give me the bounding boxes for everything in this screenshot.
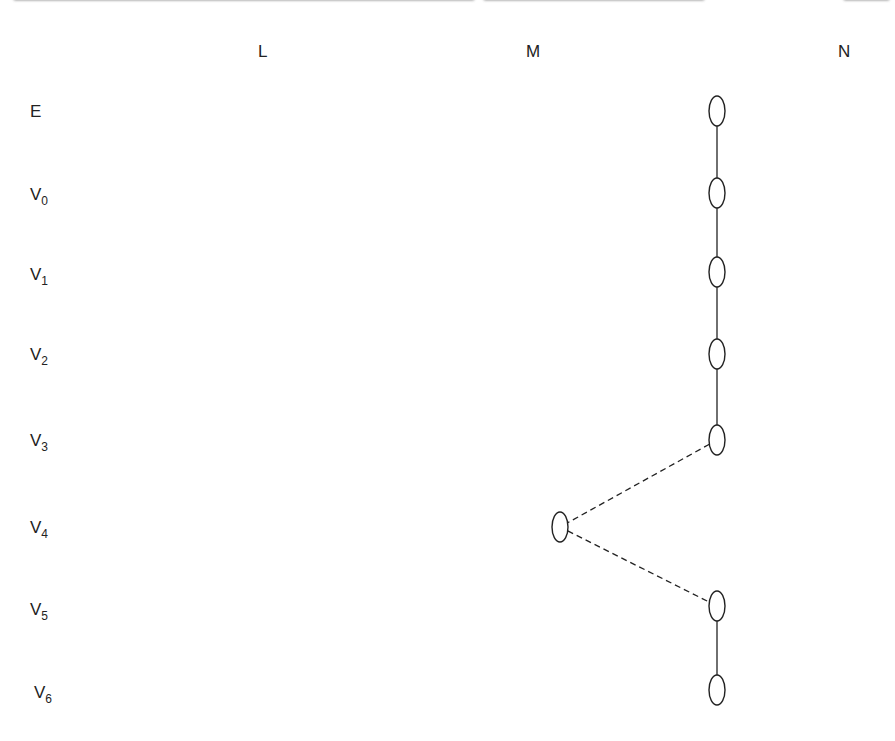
node-v0-n (709, 178, 725, 208)
node-v5-n (709, 591, 725, 621)
node-v2-n (709, 339, 725, 369)
edge-v4-v5 (568, 531, 710, 602)
node-v3-n (709, 425, 725, 455)
node-v4-m (552, 512, 568, 542)
node-v6-n (709, 675, 725, 705)
node-v1-n (709, 257, 725, 287)
node-e-n (709, 96, 725, 126)
graph (0, 0, 895, 741)
edge-v3-v4 (568, 444, 710, 522)
